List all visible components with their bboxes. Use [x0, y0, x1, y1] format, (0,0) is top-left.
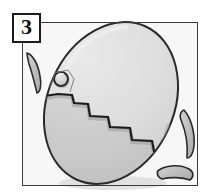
panel-number-text: 3 [21, 16, 32, 38]
panel-number-badge: 3 [12, 13, 41, 43]
shard-right-lower [157, 166, 193, 180]
figure-panel: 3 [0, 0, 211, 196]
